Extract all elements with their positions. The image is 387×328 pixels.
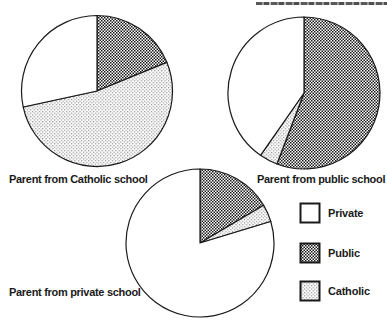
pie-parent-catholic-school <box>20 14 174 168</box>
pie-title-catholic-school: Parent from Catholic school <box>9 173 148 185</box>
pie-0-slice-private <box>22 16 97 108</box>
pie-parent-public-school <box>227 16 381 170</box>
legend-label-catholic: Catholic <box>328 285 370 297</box>
legend-row-catholic: Catholic <box>299 280 370 302</box>
legend-row-private: Private <box>299 202 363 224</box>
pie-title-private-school: Parent from private school <box>9 286 141 298</box>
pie-parent-private-school <box>125 168 275 318</box>
legend-label-public: Public <box>328 247 360 259</box>
legend-label-private: Private <box>328 207 363 219</box>
legend-swatch-private <box>299 202 321 224</box>
cropped-text-artifact <box>256 2 387 5</box>
legend-swatch-catholic <box>299 280 321 302</box>
pie-title-public-school: Parent from public school <box>257 173 385 185</box>
legend-row-public: Public <box>299 242 360 264</box>
legend-swatch-public <box>299 242 321 264</box>
figure-canvas: Parent from Catholic school Parent from … <box>0 0 387 328</box>
